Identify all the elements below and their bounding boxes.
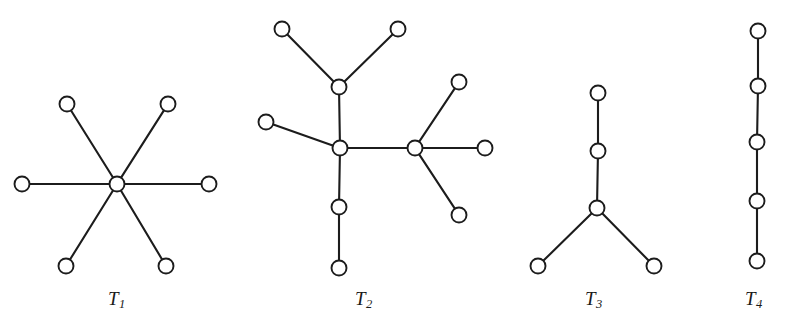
- tree-edge: [71, 110, 114, 178]
- tree-label-t2-subscript: 2: [366, 297, 372, 311]
- tree-edge: [597, 158, 598, 201]
- tree-label-t4: T4: [745, 288, 762, 312]
- tree-node-node-4: [750, 194, 765, 209]
- tree-edge: [419, 154, 455, 209]
- tree-node-center: [110, 177, 125, 192]
- tree-label-t4-text: T: [745, 288, 756, 309]
- tree-label-t1-subscript: 1: [119, 297, 125, 311]
- tree-node-leaf-top-left: [275, 22, 290, 37]
- tree-node-leaf-bottom-right: [159, 259, 174, 274]
- tree-label-t2: T2: [355, 288, 372, 312]
- tree-edge: [419, 88, 455, 142]
- tree-node-hub-right: [408, 141, 423, 156]
- tree-node-leaf-bottom: [332, 261, 347, 276]
- tree-edge: [602, 213, 649, 261]
- tree-edge: [757, 93, 758, 135]
- tree-figure: T1 T2 T3 T4: [0, 0, 790, 327]
- tree-node-leaf-bottom-left: [531, 259, 546, 274]
- tree-node-leaf-right: [202, 177, 217, 192]
- tree-label-t4-subscript: 4: [756, 297, 762, 311]
- tree-node-leaf-east: [478, 141, 493, 156]
- tree-t3: [531, 86, 662, 274]
- trees-group: [15, 22, 766, 276]
- tree-node-leaf-top-right: [161, 97, 176, 112]
- tree-t4: [750, 24, 766, 269]
- graph-canvas: [0, 0, 790, 327]
- tree-edge: [287, 34, 334, 82]
- tree-label-t3-text: T: [585, 288, 596, 309]
- tree-node-top: [591, 86, 606, 101]
- tree-node-leaf-top-right: [391, 22, 406, 37]
- tree-t1: [15, 97, 217, 274]
- tree-node-leaf-bottom-right: [647, 259, 662, 274]
- tree-node-hub-left: [333, 141, 348, 156]
- tree-node-leaf-bottom-left: [59, 259, 74, 274]
- tree-edge: [121, 190, 163, 260]
- tree-node-node-1: [751, 24, 766, 39]
- tree-edge: [121, 110, 164, 178]
- tree-node-leaf-upper-right: [452, 75, 467, 90]
- tree-label-t3: T3: [585, 288, 602, 312]
- tree-label-t1: T1: [108, 288, 125, 312]
- tree-node-upper-fork: [332, 80, 347, 95]
- tree-edge: [339, 94, 340, 141]
- tree-label-t1-text: T: [108, 288, 119, 309]
- tree-edge: [344, 34, 393, 82]
- tree-t2: [259, 22, 493, 276]
- tree-label-t2-text: T: [355, 288, 366, 309]
- tree-node-node-5: [750, 254, 765, 269]
- tree-node-node-2: [751, 79, 766, 94]
- tree-edge: [273, 124, 334, 145]
- tree-node-leaf-left: [15, 177, 30, 192]
- tree-node-mid-lower: [332, 200, 347, 215]
- tree-node-leaf-lower-right: [452, 208, 467, 223]
- tree-label-t3-subscript: 3: [596, 297, 602, 311]
- tree-edge: [70, 190, 114, 260]
- tree-node-node-3: [750, 135, 765, 150]
- tree-node-leaf-top-left: [60, 97, 75, 112]
- tree-node-upper-middle: [591, 144, 606, 159]
- tree-edge: [339, 155, 340, 200]
- tree-node-fork: [590, 201, 605, 216]
- tree-node-leaf-west: [259, 115, 274, 130]
- tree-edge: [543, 213, 592, 261]
